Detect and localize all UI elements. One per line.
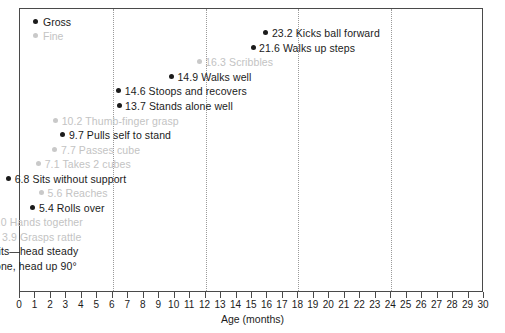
data-point-label: 10.2 Thumb-finger grasp <box>62 115 179 127</box>
data-point-label: 13.7 Stands alone well <box>125 100 233 112</box>
data-point-label: 9.7 Pulls self to stand <box>69 129 171 141</box>
x-tick-7 <box>127 292 128 298</box>
x-tick-28 <box>452 292 453 298</box>
x-tick-17 <box>282 292 283 298</box>
x-tick-21 <box>344 292 345 298</box>
x-tick-label: 20 <box>323 299 334 310</box>
x-tick-label: 17 <box>276 299 287 310</box>
gridline-month-12 <box>206 9 207 291</box>
data-point-label: 3.9 Grasps rattle <box>2 231 81 243</box>
x-tick-30 <box>483 292 484 298</box>
data-point: 14.9 Walks well <box>169 69 252 83</box>
data-point-label: 3.7 Sits—head steady <box>0 245 78 257</box>
data-point-dot-icon <box>6 176 11 181</box>
plot-area: 23.2 Kicks ball forward21.6 Walks up ste… <box>19 8 483 292</box>
data-point-label: 14.6 Stoops and recovers <box>125 85 247 97</box>
milestone-scatter-chart: 23.2 Kicks ball forward21.6 Walks up ste… <box>0 0 505 333</box>
x-axis: 0123456789101112131415161718192021222324… <box>0 292 505 333</box>
data-point: 3.6 Prone, head up 90° <box>0 258 77 272</box>
x-tick-19 <box>313 292 314 298</box>
data-point: 13.7 Stands alone well <box>117 98 233 112</box>
x-tick-15 <box>251 292 252 298</box>
legend: GrossFine <box>33 14 71 42</box>
x-tick-label: 11 <box>184 299 194 310</box>
x-tick-label: 13 <box>215 299 226 310</box>
data-point-label: 6.8 Sits without support <box>15 173 127 185</box>
x-axis-title: Age (months) <box>0 313 505 325</box>
data-point-dot-icon <box>251 45 256 50</box>
x-tick-label: 22 <box>354 299 365 310</box>
data-point-dot-icon <box>39 190 44 195</box>
x-tick-label: 5 <box>94 299 100 310</box>
x-tick-label: 28 <box>447 299 458 310</box>
data-point-label: 3.6 Prone, head up 90° <box>0 260 77 272</box>
data-point-dot-icon <box>117 103 122 108</box>
data-point: 9.7 Pulls self to stand <box>60 127 171 141</box>
x-tick-label: 12 <box>199 299 210 310</box>
x-tick-20 <box>328 292 329 298</box>
x-tick-9 <box>158 292 159 298</box>
x-tick-24 <box>390 292 391 298</box>
x-tick-13 <box>220 292 221 298</box>
data-point: 14.6 Stoops and recovers <box>116 83 247 97</box>
legend-dot-icon <box>33 33 38 38</box>
x-tick-label: 6 <box>109 299 115 310</box>
gridline-month-24 <box>391 9 392 291</box>
x-tick-label: 8 <box>140 299 146 310</box>
data-point-dot-icon <box>53 118 58 123</box>
x-tick-25 <box>406 292 407 298</box>
legend-item-gross[interactable]: Gross <box>33 14 71 28</box>
x-tick-label: 1 <box>32 299 38 310</box>
data-point-dot-icon <box>197 59 202 64</box>
data-point: 23.2 Kicks ball forward <box>263 25 379 39</box>
data-point-dot-icon <box>52 147 57 152</box>
x-tick-4 <box>81 292 82 298</box>
data-point: 10.2 Thumb-finger grasp <box>53 112 179 126</box>
data-point: 16.3 Scribbles <box>197 54 273 68</box>
x-tick-18 <box>297 292 298 298</box>
x-tick-label: 25 <box>400 299 411 310</box>
x-tick-label: 21 <box>338 299 349 310</box>
data-point-dot-icon <box>116 88 121 93</box>
x-tick-label: 24 <box>385 299 396 310</box>
data-point-label: 7.1 Takes 2 cubes <box>45 158 131 170</box>
x-tick-label: 0 <box>16 299 22 310</box>
x-tick-2 <box>50 292 51 298</box>
x-tick-label: 16 <box>261 299 272 310</box>
data-point: 7.7 Passes cube <box>52 141 140 155</box>
x-tick-label: 10 <box>168 299 179 310</box>
x-tick-3 <box>65 292 66 298</box>
x-tick-label: 14 <box>230 299 241 310</box>
x-tick-0 <box>19 292 20 298</box>
legend-dot-icon <box>33 19 38 24</box>
x-tick-label: 9 <box>155 299 161 310</box>
data-point-label: 21.6 Walks up steps <box>259 42 355 54</box>
x-tick-label: 15 <box>245 299 256 310</box>
x-tick-label: 18 <box>292 299 303 310</box>
data-point: 7.1 Takes 2 cubes <box>36 156 131 170</box>
x-tick-10 <box>174 292 175 298</box>
x-tick-label: 7 <box>124 299 130 310</box>
x-tick-label: 19 <box>307 299 318 310</box>
x-tick-label: 3 <box>63 299 69 310</box>
data-point-dot-icon <box>263 30 268 35</box>
x-tick-label: 4 <box>78 299 84 310</box>
x-tick-label: 29 <box>462 299 473 310</box>
legend-item-label: Fine <box>43 30 63 42</box>
x-tick-12 <box>205 292 206 298</box>
x-tick-label: 23 <box>369 299 380 310</box>
x-tick-5 <box>96 292 97 298</box>
x-tick-1 <box>34 292 35 298</box>
data-point-label: 5.4 Rolls over <box>39 202 105 214</box>
x-tick-29 <box>468 292 469 298</box>
x-tick-label: 30 <box>477 299 488 310</box>
data-point-dot-icon <box>169 74 174 79</box>
x-tick-label: 27 <box>431 299 442 310</box>
data-point-dot-icon <box>30 205 35 210</box>
data-point-label: 14.9 Walks well <box>177 71 251 83</box>
data-point-label: 7.7 Passes cube <box>61 144 140 156</box>
data-point: 3.7 Sits—head steady <box>0 243 78 257</box>
legend-item-fine[interactable]: Fine <box>33 28 71 42</box>
x-tick-label: 2 <box>47 299 53 310</box>
data-point-dot-icon <box>60 132 65 137</box>
